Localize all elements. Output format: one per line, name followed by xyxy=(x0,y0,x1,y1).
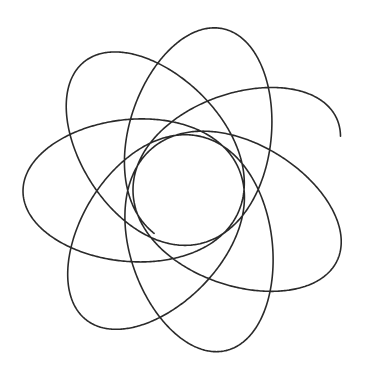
rosette-drawing xyxy=(0,0,374,378)
rosette-curve xyxy=(23,28,341,352)
